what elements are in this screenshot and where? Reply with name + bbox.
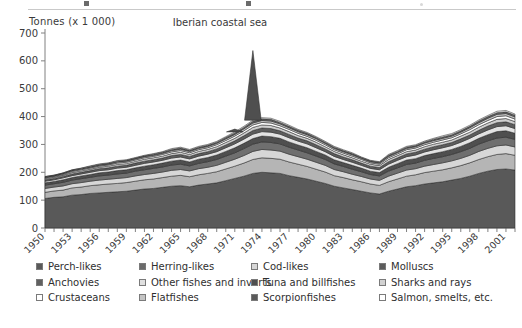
- chart-legend: Perch-likes Herring-likes Cod-likes Moll…: [36, 259, 516, 305]
- legend-swatch-other-fishes-and-inverts: [139, 279, 146, 286]
- legend-swatch-molluscs: [379, 263, 386, 270]
- area-series-spike: [245, 51, 262, 121]
- legend-item-scorpionfishes[interactable]: Scorpionfishes: [251, 292, 379, 303]
- legend-item-salmon-smelts-etc[interactable]: Salmon, smelts, etc.: [379, 292, 499, 303]
- legend-swatch-herring-likes: [139, 263, 146, 270]
- legend-label-cod-likes: Cod-likes: [263, 261, 308, 272]
- x-axis-tick-label: 1950: [22, 231, 47, 256]
- legend-swatch-cod-likes: [251, 263, 258, 270]
- x-axis-tick-label: 1998: [455, 231, 480, 256]
- legend-swatch-scorpionfishes: [251, 294, 258, 301]
- legend-item-sharks-and-rays[interactable]: Sharks and rays: [379, 277, 499, 288]
- x-axis-tick-label: 1977: [266, 231, 291, 256]
- x-axis-tick-label: 1992: [401, 231, 426, 256]
- x-axis-tick-label: 1962: [130, 231, 155, 256]
- legend-swatch-flatfishes: [139, 294, 146, 301]
- x-axis-tick-label: 1983: [320, 231, 345, 256]
- x-axis-tick-label: 1974: [238, 231, 263, 256]
- legend-item-other-fishes-and-inverts[interactable]: Other fishes and inverts: [139, 277, 251, 288]
- y-axis-tick-label: 200: [19, 167, 38, 178]
- legend-swatch-salmon-smelts-etc: [379, 294, 386, 301]
- x-axis-tick-label: 1986: [347, 231, 372, 256]
- x-axis-tick-label: 1980: [293, 231, 318, 256]
- legend-swatch-tuna-and-billfishes: [251, 279, 258, 286]
- legend-item-crustaceans[interactable]: Crustaceans: [36, 292, 139, 303]
- x-axis-tick-label: 1956: [76, 231, 101, 256]
- x-axis-tick-label: 1965: [157, 231, 182, 256]
- legend-item-flatfishes[interactable]: Flatfishes: [139, 292, 251, 303]
- legend-label-herring-likes: Herring-likes: [151, 261, 214, 272]
- legend-item-anchovies[interactable]: Anchovies: [36, 277, 139, 288]
- x-axis-tick-label: 2001: [482, 231, 507, 256]
- legend-label-scorpionfishes: Scorpionfishes: [263, 292, 336, 303]
- y-axis-tick-label: 700: [19, 28, 38, 39]
- x-axis-tick-label: 1968: [184, 231, 209, 256]
- legend-label-flatfishes: Flatfishes: [151, 292, 199, 303]
- legend-row-3: Crustaceans Flatfishes Scorpionfishes Sa…: [36, 290, 516, 305]
- legend-item-cod-likes[interactable]: Cod-likes: [251, 261, 379, 272]
- x-axis-tick-label: 1995: [428, 231, 453, 256]
- x-axis-tick-label: 1971: [211, 231, 236, 256]
- legend-item-herring-likes[interactable]: Herring-likes: [139, 261, 251, 272]
- legend-swatch-perch-likes: [36, 263, 43, 270]
- legend-row-2: Anchovies Other fishes and inverts Tuna …: [36, 274, 516, 289]
- y-axis-tick-label: 600: [19, 55, 38, 66]
- legend-row-1: Perch-likes Herring-likes Cod-likes Moll…: [36, 259, 516, 274]
- legend-label-salmon-smelts-etc: Salmon, smelts, etc.: [391, 292, 493, 303]
- x-axis-tick-label: 1953: [49, 231, 74, 256]
- legend-label-sharks-and-rays: Sharks and rays: [391, 277, 471, 288]
- legend-label-tuna-and-billfishes: Tuna and billfishes: [263, 277, 355, 288]
- legend-swatch-sharks-and-rays: [379, 279, 386, 286]
- legend-item-tuna-and-billfishes[interactable]: Tuna and billfishes: [251, 277, 379, 288]
- legend-swatch-crustaceans: [36, 294, 43, 301]
- y-axis-tick-label: 400: [19, 111, 38, 122]
- x-axis-tick-label: 1959: [103, 231, 128, 256]
- y-axis-tick-label: 300: [19, 139, 38, 150]
- legend-swatch-anchovies: [36, 279, 43, 286]
- x-axis-tick-label: 1989: [374, 231, 399, 256]
- legend-item-molluscs[interactable]: Molluscs: [379, 261, 499, 272]
- stacked-area-chart: 0100200300400500600700195019531956195919…: [0, 0, 522, 260]
- figure-container: Tonnes (x 1 000) Iberian coastal sea 010…: [0, 0, 522, 328]
- y-axis-tick-label: 100: [19, 195, 38, 206]
- legend-label-anchovies: Anchovies: [48, 277, 99, 288]
- legend-label-perch-likes: Perch-likes: [48, 261, 102, 272]
- legend-label-molluscs: Molluscs: [391, 261, 434, 272]
- legend-item-perch-likes[interactable]: Perch-likes: [36, 261, 139, 272]
- y-axis-tick-label: 500: [19, 83, 38, 94]
- legend-label-crustaceans: Crustaceans: [48, 292, 110, 303]
